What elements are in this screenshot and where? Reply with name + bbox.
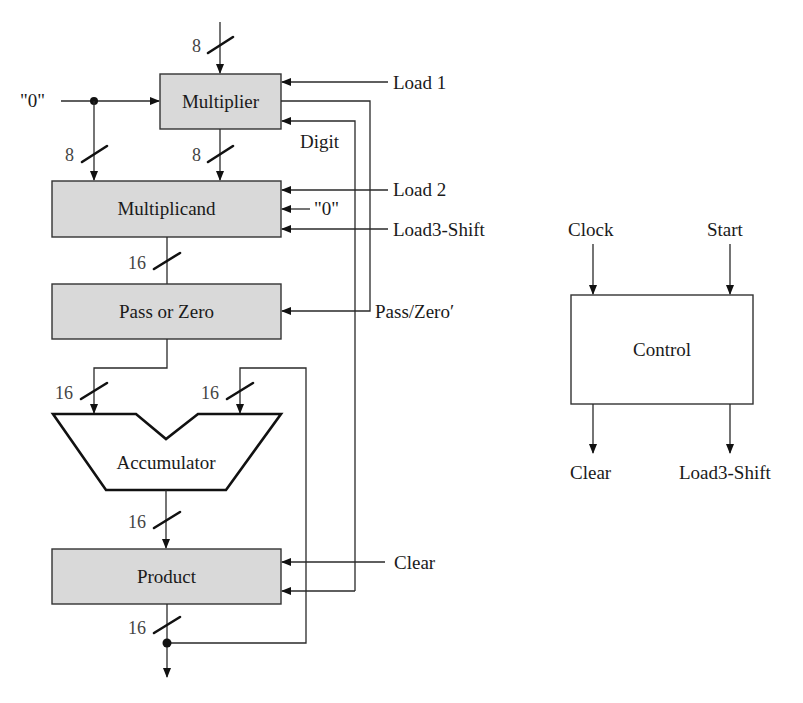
product-block: Product xyxy=(52,549,281,604)
start-input: Start xyxy=(707,219,744,294)
svg-text:16: 16 xyxy=(201,383,219,403)
svg-text:Load3-Shift: Load3-Shift xyxy=(393,219,486,240)
svg-text:Load 2: Load 2 xyxy=(393,179,446,200)
load2-signal: Load 2 xyxy=(282,179,446,200)
svg-text:16: 16 xyxy=(55,383,73,403)
pass-or-zero-label: Pass or Zero xyxy=(119,301,214,322)
multiplicand-block: Multiplicand xyxy=(52,181,281,237)
svg-text:8: 8 xyxy=(65,145,74,165)
multiplicand-label: Multiplicand xyxy=(117,198,216,219)
digit-shift-line: Digit xyxy=(282,121,355,591)
zero-input-right: "0" xyxy=(282,198,339,219)
multiplier-to-multiplicand-bus: 8 xyxy=(192,129,233,180)
multiplier-block: Multiplier xyxy=(160,74,281,129)
load3-shift-signal: Load3-Shift xyxy=(282,219,486,240)
svg-text:16: 16 xyxy=(128,618,146,638)
svg-text:"0": "0" xyxy=(20,90,45,111)
zero-input-left: "0" 8 xyxy=(20,90,159,180)
control-block: Control xyxy=(571,295,753,404)
svg-text:16: 16 xyxy=(128,253,146,273)
clear-output: Clear xyxy=(570,404,612,483)
svg-text:Load3-Shift: Load3-Shift xyxy=(679,462,772,483)
accumulator-label: Accumulator xyxy=(116,452,216,473)
multiplier-label: Multiplier xyxy=(182,91,260,112)
load1-signal: Load 1 xyxy=(282,72,446,93)
svg-text:"0": "0" xyxy=(314,198,339,219)
svg-text:Digit: Digit xyxy=(300,131,340,152)
svg-text:Pass/Zero′: Pass/Zero′ xyxy=(375,301,454,322)
product-output-bus: 16 xyxy=(128,604,180,677)
accumulator-block: Accumulator xyxy=(53,414,281,490)
multiplicand-to-pass-bus: 16 xyxy=(128,237,180,284)
pass-to-accumulator-bus: 16 xyxy=(55,339,167,413)
svg-text:16: 16 xyxy=(128,512,146,532)
svg-text:Start: Start xyxy=(707,219,744,240)
load3-shift-output: Load3-Shift xyxy=(679,404,772,483)
multiplier-datapath-diagram: Multiplier 8 "0" 8 8 Load 1 Pass/Zero′ D… xyxy=(0,0,803,703)
control-label: Control xyxy=(633,339,691,360)
pass-or-zero-block: Pass or Zero xyxy=(52,284,281,339)
clock-input: Clock xyxy=(568,219,614,294)
svg-text:Load 1: Load 1 xyxy=(393,72,446,93)
junction-dot xyxy=(163,639,172,648)
svg-text:Clear: Clear xyxy=(394,552,436,573)
svg-text:8: 8 xyxy=(192,36,201,56)
product-label: Product xyxy=(137,566,197,587)
svg-text:Clear: Clear xyxy=(570,462,612,483)
accumulator-to-product-bus: 16 xyxy=(128,490,180,548)
svg-text:Clock: Clock xyxy=(568,219,614,240)
multiplier-input-bus: 8 xyxy=(192,22,233,73)
clear-signal: Clear xyxy=(282,552,436,573)
svg-text:8: 8 xyxy=(192,145,201,165)
